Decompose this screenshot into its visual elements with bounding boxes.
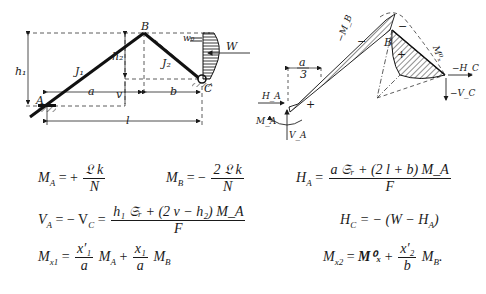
sign-plus-left: +: [306, 98, 315, 111]
equation-mb: MB = − 2 𝔏 kN: [166, 163, 246, 194]
label-j2: J₂: [160, 57, 171, 70]
equation-va: VA = − VC = h₁ 𝔖ᵣ + (2 v − h₂) M_AF: [38, 205, 247, 236]
label-h1: h₁: [15, 65, 27, 78]
label-l: l: [126, 114, 130, 127]
label-hc: −H_C: [452, 63, 479, 74]
wind-load-diagram: [203, 33, 219, 79]
label-w: W: [226, 40, 239, 53]
equation-mx2: Mx2 = M⁰ₓ + x′₂b MB.: [323, 242, 443, 273]
moment-diagram-figure: B a 3 H_A M_A V_A −H_C −V_C −M_B M⁰ₓ + +…: [255, 13, 479, 141]
label-ma: M_A: [255, 116, 277, 127]
label-b-dim: b: [170, 85, 177, 98]
label-c: C: [204, 82, 213, 95]
label-va: V_A: [289, 130, 307, 141]
label-mb: −M_B: [335, 13, 355, 43]
label-b-right: B: [383, 36, 392, 49]
label-ha: H_A: [261, 91, 281, 102]
label-vc: −V_C: [450, 88, 476, 99]
label-j1: J₁: [73, 65, 84, 78]
frame-diagrams: B A C J₁ J₂ h₁ h₂ v a b l W w₀: [0, 0, 486, 150]
label-h2: h₂: [112, 50, 124, 63]
equation-mx1: Mx1 = x′₁a MA + x₁a MB: [38, 242, 171, 273]
label-a3-den: 3: [300, 68, 307, 81]
sign-plus-right: +: [397, 48, 406, 61]
label-v: v: [116, 88, 123, 101]
label-mx0: M⁰ₓ: [431, 43, 446, 63]
label-w0: w₀: [183, 33, 195, 43]
sign-minus-b: −: [398, 20, 407, 33]
label-a-dim: a: [88, 85, 95, 98]
label-b: B: [140, 20, 149, 33]
equation-hc: HC = − (W − HA): [340, 213, 439, 230]
equation-ma: MA = + 𝔏 kN: [38, 163, 107, 194]
equation-ha: HA = a 𝔖ᵣ + (2 l + b) M_AF: [296, 163, 453, 194]
sign-minus-j1: −: [357, 35, 366, 48]
frame-geometry-figure: B A C J₁ J₂ h₁ h₂ v a b l W w₀: [15, 20, 250, 127]
label-a: A: [35, 94, 44, 107]
